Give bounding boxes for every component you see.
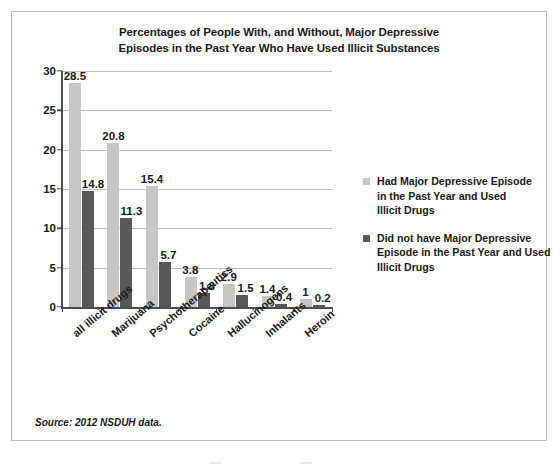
legend-swatch-icon: [363, 178, 370, 185]
x-axis-category-label: Heroin: [302, 308, 336, 340]
artifact-mark-right: [300, 462, 312, 464]
source-note: Source: 2012 NSDUH data.: [35, 417, 162, 428]
legend-label-line: Did not have Major Depressive: [377, 231, 543, 246]
figure-frame: Percentages of People With, and Without,…: [11, 11, 547, 441]
legend-label-line: Episode in the Past Year and Used: [377, 245, 543, 260]
legend-entry[interactable]: Had Major Depressive Episodein the Past …: [363, 174, 543, 218]
x-axis-category-label: Cocaine: [186, 302, 226, 339]
chart-legend: Had Major Depressive Episodein the Past …: [363, 174, 543, 287]
artifact-mark-left: [209, 462, 221, 464]
legend-entry[interactable]: Did not have Major DepressiveEpisode in …: [363, 231, 543, 275]
legend-label-line: Had Major Depressive Episode: [377, 174, 543, 189]
legend-label-line: Illicit Drugs: [377, 203, 543, 218]
legend-label-line: Illicit Drugs: [377, 260, 543, 275]
legend-swatch-icon: [363, 235, 370, 242]
bottom-artifact: [0, 452, 560, 471]
legend-label-line: in the Past Year and Used: [377, 189, 543, 204]
